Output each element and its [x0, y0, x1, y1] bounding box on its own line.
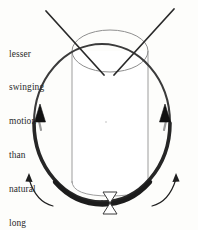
rotation-arrow-right-head-icon	[172, 173, 179, 182]
annotation-line-1: lesser	[9, 49, 71, 60]
annotation-line-6: long	[9, 218, 71, 229]
cylinder-body-fill	[72, 51, 148, 196]
golf-swing-arc-figure: lesser swinging motion than natural long…	[0, 0, 198, 230]
annotation-line-4: than	[9, 150, 71, 161]
arc-tick-right	[164, 121, 166, 130]
cylinder-center-dot	[105, 121, 107, 123]
annotation-line-2: swinging	[9, 82, 71, 93]
rotation-arrow-right-curve	[152, 179, 176, 206]
swing-motion-annotation: lesser swinging motion than natural long…	[9, 26, 71, 230]
annotation-line-5: natural	[9, 184, 71, 195]
annotation-line-3: motion	[9, 116, 71, 127]
